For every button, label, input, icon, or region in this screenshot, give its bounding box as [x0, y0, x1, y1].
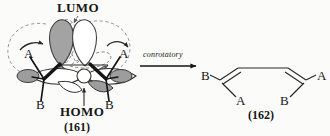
lumo-label: LUMO: [57, 0, 99, 16]
substituent-right-b: B: [105, 97, 114, 113]
lumo-lobe-shaded: [50, 20, 74, 66]
substituent-left-a: A: [24, 46, 33, 62]
scheme-canvas: [0, 0, 330, 136]
homo-label: HOMO: [60, 104, 104, 120]
substituent-left-b: B: [36, 97, 45, 113]
reaction-arrow-label: conrotatory: [143, 50, 183, 59]
lumo-lobe-open: [73, 20, 97, 66]
diene-substituent-b-left: B: [201, 68, 210, 84]
diene-skeleton: [210, 68, 316, 97]
reaction-scheme-figure: LUMO HOMO (161) A B A B conrotatory B A …: [0, 0, 330, 136]
homo-sublobe-shaded-left: [58, 81, 82, 92]
terminal-lobe-right: [110, 70, 132, 83]
product-compound-label: (162): [248, 108, 274, 123]
diene-substituent-b-right: B: [280, 93, 289, 109]
substituent-right-a: A: [119, 46, 128, 62]
reactant-compound-label: (161): [64, 120, 90, 135]
terminal-lobe-left: [17, 70, 39, 83]
diene-substituent-a-left: A: [236, 93, 245, 109]
homo-node-circle: [77, 69, 91, 83]
diene-substituent-a-right: A: [317, 68, 326, 84]
